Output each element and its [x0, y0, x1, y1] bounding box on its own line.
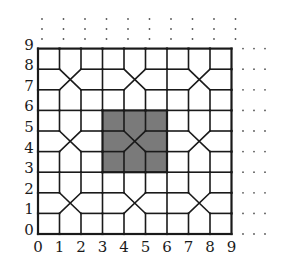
ellipsis-dot — [264, 233, 266, 235]
ellipsis-dot — [264, 130, 266, 132]
ellipsis-dot — [170, 38, 172, 40]
y-tick-label: 3 — [24, 161, 34, 176]
y-tick-label: 0 — [24, 223, 34, 238]
ellipsis-dot — [253, 48, 255, 50]
ellipsis-dot — [264, 151, 266, 153]
ellipsis-dot — [63, 28, 65, 30]
ellipsis-dot — [84, 28, 86, 30]
grid-canvas — [0, 0, 283, 272]
y-tick-label: 9 — [24, 37, 34, 52]
ellipsis-dot — [242, 68, 244, 70]
ellipsis-dot — [149, 18, 151, 20]
ellipsis-dot — [41, 28, 43, 30]
ellipsis-dot — [106, 38, 108, 40]
ellipsis-dot — [106, 18, 108, 20]
ellipsis-dot — [253, 110, 255, 112]
ellipsis-dot — [253, 89, 255, 91]
ellipsis-dot — [264, 171, 266, 173]
x-tick-label: 3 — [98, 240, 108, 255]
ellipsis-dot — [170, 28, 172, 30]
ellipsis-dot — [253, 151, 255, 153]
ellipsis-dot — [41, 38, 43, 40]
x-tick-label: 2 — [76, 240, 86, 255]
y-tick-label: 1 — [24, 202, 34, 217]
y-tick-label: 5 — [24, 120, 34, 135]
ellipsis-dot — [41, 18, 43, 20]
x-tick-label: 1 — [55, 240, 65, 255]
ellipsis-dot — [106, 28, 108, 30]
ellipsis-dot — [264, 192, 266, 194]
ellipsis-dot — [192, 18, 194, 20]
ellipsis-dot — [242, 48, 244, 50]
ellipsis-dot — [192, 38, 194, 40]
ellipsis-dot — [242, 151, 244, 153]
ellipsis-dot — [235, 18, 237, 20]
x-tick-label: 5 — [141, 240, 151, 255]
tiling-diagram: 0123456789 0123456789 — [0, 0, 283, 272]
ellipsis-dot — [235, 28, 237, 30]
ellipsis-dot — [264, 48, 266, 50]
ellipsis-dot — [253, 171, 255, 173]
ellipsis-dot — [253, 68, 255, 70]
ellipsis-dot — [242, 192, 244, 194]
ellipsis-dot — [253, 192, 255, 194]
ellipsis-dot — [264, 213, 266, 215]
ellipsis-dot — [127, 28, 129, 30]
ellipsis-dot — [242, 89, 244, 91]
y-tick-label: 6 — [24, 99, 34, 114]
ellipsis-dot — [127, 38, 129, 40]
y-tick-label: 2 — [24, 181, 34, 196]
ellipsis-dot — [264, 89, 266, 91]
ellipsis-dot — [149, 28, 151, 30]
y-tick-label: 4 — [24, 140, 34, 155]
ellipsis-dot — [253, 213, 255, 215]
x-tick-label: 7 — [184, 240, 194, 255]
ellipsis-dot — [149, 38, 151, 40]
ellipsis-dot — [192, 28, 194, 30]
y-tick-label: 8 — [24, 58, 34, 73]
grid-lines — [38, 49, 232, 234]
ellipsis-dot — [84, 38, 86, 40]
x-tick-label: 6 — [162, 240, 172, 255]
ellipsis-dot — [264, 68, 266, 70]
ellipsis-dot — [264, 110, 266, 112]
x-tick-label: 9 — [227, 240, 237, 255]
ellipsis-dot — [242, 110, 244, 112]
ellipsis-dot — [235, 38, 237, 40]
ellipsis-dot — [213, 18, 215, 20]
x-tick-label: 8 — [205, 240, 215, 255]
ellipsis-dot — [170, 18, 172, 20]
ellipsis-dot — [84, 18, 86, 20]
ellipsis-dot — [242, 213, 244, 215]
ellipsis-dot — [213, 28, 215, 30]
ellipsis-dot — [253, 233, 255, 235]
ellipsis-dot — [242, 233, 244, 235]
x-tick-label: 0 — [33, 240, 43, 255]
ellipsis-dot — [242, 171, 244, 173]
x-tick-label: 4 — [119, 240, 129, 255]
ellipsis-dot — [63, 38, 65, 40]
ellipsis-dot — [242, 130, 244, 132]
ellipsis-dot — [253, 130, 255, 132]
ellipsis-dot — [213, 38, 215, 40]
ellipsis-dot — [63, 18, 65, 20]
y-tick-label: 7 — [24, 78, 34, 93]
ellipsis-dot — [127, 18, 129, 20]
